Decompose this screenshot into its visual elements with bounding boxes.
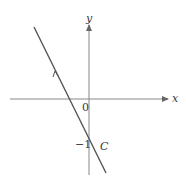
x-axis-label: x <box>172 93 178 104</box>
axes-and-curve <box>0 0 186 188</box>
diagram-canvas: y x 0 −1 C <box>0 0 186 188</box>
curve-label: C <box>100 141 108 152</box>
curve-c-line <box>34 27 106 173</box>
y-intercept-label: −1 <box>75 139 91 150</box>
y-axis-label: y <box>86 13 92 24</box>
curve-direction-arrow-icon <box>53 71 58 77</box>
origin-label: 0 <box>82 102 89 113</box>
